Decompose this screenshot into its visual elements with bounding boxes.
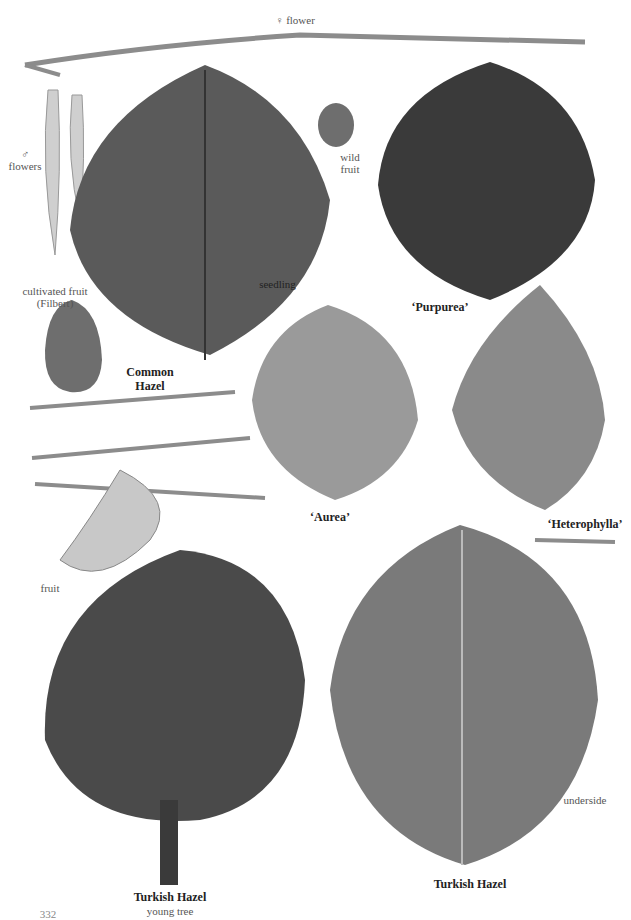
turkish-hazel-tree-title: Turkish Hazel [110,890,230,904]
male-catkin [45,90,59,255]
cultivated-fruit-label-2: (Filbert) [5,297,105,309]
purpurea-title: ‘Purpurea’ [400,300,480,314]
common-hazel-leaf [70,65,330,355]
page-number: 332 [28,908,68,920]
young-tree-label: young tree [130,905,210,917]
tree-trunk [160,800,178,885]
underside-label: underside [555,794,615,806]
fruit-label: fruit [30,582,70,594]
turkish-hazel-tree-canopy [45,550,305,821]
purpurea-leaf [378,62,595,300]
common-hazel-title-2: Hazel [110,379,190,393]
wild-fruit-label-1: wild [330,151,370,163]
male-flower-symbol: ♂ [5,148,45,160]
wild-fruit-nut [318,103,354,147]
turkish-hazel-leaf-title: Turkish Hazel [410,877,530,891]
aurea-title: ‘Aurea’ [290,510,370,524]
male-flowers-label: flowers [5,160,45,172]
heterophylla-leaf [452,285,605,510]
seedling-label: seedling [255,278,300,290]
wild-fruit-label-2: fruit [330,163,370,175]
female-flower-label: ♀ flower [255,14,335,26]
top-twig [25,35,585,65]
heterophylla-title: ‘Heterophylla’ [540,517,630,531]
filbert-nut [45,300,102,392]
common-hazel-title-1: Common [110,365,190,379]
aurea-leaf [252,305,418,500]
cultivated-fruit-label-1: cultivated fruit [5,285,105,297]
turkish-hazel-leaf-underside [330,525,598,865]
